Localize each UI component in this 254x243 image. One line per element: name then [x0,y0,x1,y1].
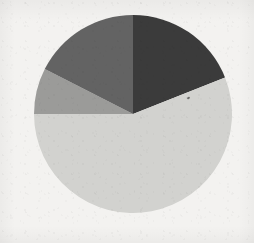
pie-chart-svg [0,0,254,243]
pie-chart-figure [0,0,254,243]
pie-wedge-group [34,15,232,213]
